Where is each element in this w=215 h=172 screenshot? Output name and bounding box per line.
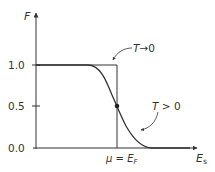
mu-xtick-label: μ = EF [105,153,138,166]
annot-tpos-label: T > 0 [152,100,181,112]
step-curve-t0 [36,65,117,148]
y-axis-label: F [24,10,31,23]
mu-point-marker [115,104,120,109]
annot-t0-arrow [113,48,132,60]
ytick-label-05: 0.5 [8,100,25,112]
ytick-label-1: 1.0 [8,59,25,71]
annot-t0-label: T→0 [133,42,155,54]
x-axis-label: Es [196,152,207,166]
annot-tpos-arrow [141,112,158,130]
fermi-dirac-chart: 1.0 0.5 0.0 F T→0 T > 0 μ = EF Es [0,0,215,172]
ytick-label-0: 0.0 [8,142,25,154]
